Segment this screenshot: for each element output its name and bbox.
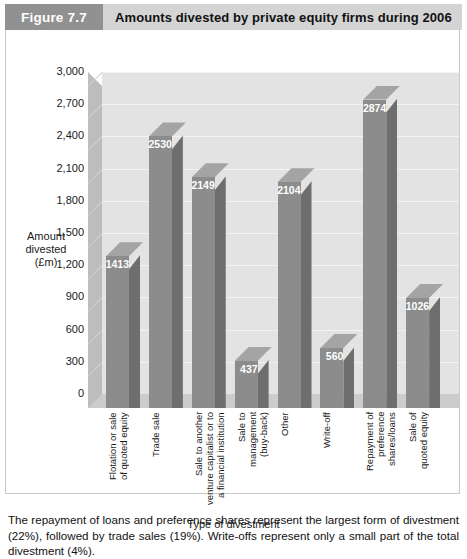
bar-front-face (278, 182, 301, 408)
figure-number-badge: Figure 7.7 (5, 4, 103, 30)
x-axis-category-label: Other (279, 412, 312, 512)
y-axis-tick-label: 2,100 (32, 162, 84, 174)
y-axis-tick-label: 1,800 (32, 194, 84, 206)
x-axis-category-label: Sale to another venture capitalist or to… (193, 412, 226, 512)
figure-body: 03006009001,2001,5001,8002,1002,4002,700… (5, 30, 460, 494)
figure-caption: The repayment of loans and preference sh… (8, 512, 459, 559)
y-axis-tick-label: 300 (32, 355, 84, 367)
bar-value-label: 2530 (131, 138, 172, 150)
y-axis-title-line: divested (12, 243, 80, 256)
bar-value-label: 2874 (345, 102, 386, 114)
figure-number-label: Figure 7.7 (21, 10, 87, 25)
bar-value-label: 1026 (388, 300, 429, 312)
chart-floor (88, 394, 459, 408)
x-axis-category-label: Sale to management (buy-back) (236, 412, 269, 512)
bar-column (149, 122, 186, 408)
bar-top-face (320, 334, 357, 348)
figure-header: Figure 7.7 Amounts divested by private e… (5, 4, 462, 30)
bar-side-face (258, 360, 269, 408)
bar-top-face (406, 284, 443, 298)
y-axis-title-line: (£m) (12, 256, 80, 269)
bar-top-face (278, 168, 315, 182)
figure-title: Amounts divested by private equity firms… (115, 4, 452, 30)
y-axis-tick-label: 2,400 (32, 129, 84, 141)
bar-top-face (149, 122, 186, 136)
bar-front-face (363, 100, 386, 408)
bar-value-label: 437 (217, 363, 258, 375)
bar-side-face (129, 255, 140, 408)
y-axis-tick-label: 2,700 (32, 97, 84, 109)
bar-top-face (106, 242, 143, 256)
bar-column (320, 334, 357, 408)
bar-column (235, 347, 272, 408)
y-axis-title: Amountdivested(£m) (12, 230, 80, 269)
gridline (102, 72, 459, 73)
bar-side-face (301, 181, 312, 408)
bar-front-face (149, 136, 172, 408)
bar-front-face (106, 256, 129, 408)
bar-value-label: 2104 (260, 184, 301, 196)
bar-side-face (429, 297, 440, 408)
y-axis-tick-label: 3,000 (32, 65, 84, 77)
x-axis-category-label: Write-off (321, 412, 354, 512)
x-axis-category-label: Repayment of preference shares/loans (364, 412, 397, 512)
bar-side-face (386, 99, 397, 408)
bar-side-face (172, 135, 183, 408)
bar-top-face (363, 86, 400, 100)
bar-column (363, 86, 400, 408)
y-axis-tick-label: 900 (32, 290, 84, 302)
y-axis-title-line: Amount (12, 230, 80, 243)
bar-chart: 03006009001,2001,5001,8002,1002,4002,700… (6, 30, 461, 494)
x-axis-category-label: Trade sale (150, 412, 183, 512)
gridline (102, 104, 459, 105)
bar-value-label: 560 (302, 350, 343, 362)
x-axis-category-label: Flotation or sale of quoted equity (107, 412, 140, 512)
bar-top-face (192, 163, 229, 177)
bar-value-label: 2149 (174, 179, 215, 191)
bar-front-face (406, 298, 429, 408)
bar-front-face (192, 177, 215, 408)
y-axis-tick-label: 0 (32, 387, 84, 399)
bar-value-label: 1413 (88, 258, 129, 270)
x-axis-category-label: Sale of quoted equity (407, 412, 440, 512)
y-axis-tick-label: 600 (32, 323, 84, 335)
bar-top-face (235, 347, 272, 361)
bar-column (278, 168, 315, 408)
bar-side-face (343, 347, 354, 408)
